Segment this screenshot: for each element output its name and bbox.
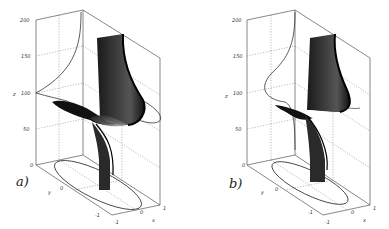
surface-lower (92, 122, 110, 190)
svg-text:x: x (362, 217, 366, 223)
grid-lines (247, 15, 370, 210)
panel-label: a) (16, 174, 29, 189)
panel-a: 200 150 100 50 0 z y 0 -1 -1 0 x 1 a) (0, 0, 195, 229)
surface-upper (97, 34, 145, 125)
profile-curve (265, 12, 295, 150)
svg-text:-1: -1 (308, 209, 313, 215)
svg-text:z: z (224, 93, 228, 99)
panel-a-plot: 200 150 100 50 0 z y 0 -1 -1 0 x 1 a) (0, 0, 195, 229)
svg-text:200: 200 (20, 17, 30, 23)
svg-text:z: z (12, 91, 16, 97)
surface-lower (305, 114, 325, 182)
z-ticks: 200 150 100 50 0 z (12, 17, 33, 168)
svg-text:y: y (260, 189, 265, 196)
profile-curve (36, 12, 81, 105)
svg-text:0: 0 (140, 209, 143, 215)
svg-text:y: y (47, 189, 52, 196)
z-ticks: 200 150 100 50 0 z (224, 17, 245, 168)
svg-text:0: 0 (351, 209, 354, 215)
panel-b: 200 150 100 50 0 z y 0 -1 -1 0 x 1 b) (195, 0, 389, 229)
svg-text:-1: -1 (325, 219, 330, 225)
svg-text:1: 1 (373, 205, 376, 211)
panel-label: b) (229, 176, 242, 191)
axes-box (247, 10, 370, 215)
svg-text:x: x (151, 217, 155, 223)
svg-text:150: 150 (21, 53, 31, 59)
svg-text:200: 200 (232, 17, 242, 23)
xy-ticks: y 0 -1 -1 0 x 1 (260, 186, 376, 225)
svg-text:0: 0 (242, 162, 245, 168)
svg-text:50: 50 (235, 126, 241, 132)
svg-text:-1: -1 (95, 212, 100, 218)
svg-text:50: 50 (23, 126, 29, 132)
svg-text:100: 100 (21, 90, 31, 96)
surface-upper (307, 34, 350, 112)
svg-text:0: 0 (275, 186, 278, 192)
svg-text:0: 0 (30, 162, 33, 168)
svg-text:1: 1 (163, 205, 166, 211)
svg-text:-1: -1 (114, 219, 119, 225)
panel-b-plot: 200 150 100 50 0 z y 0 -1 -1 0 x 1 b) (195, 0, 389, 229)
svg-text:0: 0 (60, 185, 63, 191)
svg-text:100: 100 (233, 90, 243, 96)
svg-text:150: 150 (233, 53, 243, 59)
